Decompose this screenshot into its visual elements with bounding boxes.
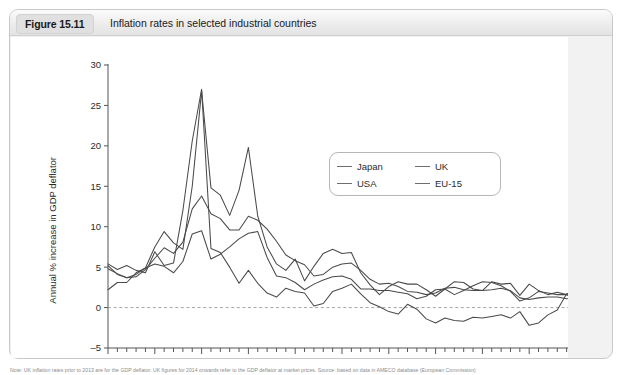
svg-text:2015: 2015 xyxy=(565,356,568,358)
svg-text:–5: –5 xyxy=(90,342,101,353)
legend-line-icon-eu15 xyxy=(415,183,430,184)
legend-line-icon-uk xyxy=(415,166,430,167)
svg-text:30: 30 xyxy=(90,59,101,70)
legend-item-uk: UK xyxy=(415,161,493,172)
svg-text:5: 5 xyxy=(96,262,101,273)
figure-footnote: Note: UK inflation rates prior to 2013 a… xyxy=(10,366,618,375)
plot-canvas: Annual % increase in GDP deflator –50510… xyxy=(11,37,568,358)
svg-text:1985: 1985 xyxy=(285,356,306,358)
legend-label-uk: UK xyxy=(435,161,448,172)
svg-text:20: 20 xyxy=(90,140,101,151)
figure-panel: Figure 15.11 Inflation rates in selected… xyxy=(9,9,613,359)
svg-text:1970: 1970 xyxy=(144,356,165,358)
svg-text:1995: 1995 xyxy=(378,356,399,358)
legend-line-icon-usa xyxy=(337,183,352,184)
line-chart: –505101520253019651970197519801985199019… xyxy=(11,37,568,358)
svg-text:1980: 1980 xyxy=(238,356,259,358)
figure-title: Inflation rates in selected industrial c… xyxy=(110,10,317,36)
legend-item-usa: USA xyxy=(337,178,415,189)
legend-item-japan: Japan xyxy=(337,161,415,172)
svg-text:15: 15 xyxy=(90,181,101,192)
legend-label-japan: Japan xyxy=(357,161,383,172)
svg-text:1975: 1975 xyxy=(191,356,212,358)
svg-text:1990: 1990 xyxy=(331,356,352,358)
svg-text:1965: 1965 xyxy=(97,356,118,358)
legend-item-eu15: EU-15 xyxy=(415,178,493,189)
svg-text:0: 0 xyxy=(96,302,101,313)
svg-text:10: 10 xyxy=(90,221,101,232)
legend-label-eu15: EU-15 xyxy=(435,178,462,189)
figure-header: Figure 15.11 Inflation rates in selected… xyxy=(10,10,612,36)
svg-text:2000: 2000 xyxy=(425,356,446,358)
svg-text:2005: 2005 xyxy=(472,356,493,358)
figure-number-badge: Figure 15.11 xyxy=(16,14,94,34)
legend-label-usa: USA xyxy=(357,178,377,189)
chart-legend: Japan UK USA EU-15 xyxy=(329,152,501,196)
svg-text:2010: 2010 xyxy=(519,356,540,358)
legend-line-icon-japan xyxy=(337,166,352,167)
series-line-japan xyxy=(108,89,568,325)
svg-text:25: 25 xyxy=(90,100,101,111)
